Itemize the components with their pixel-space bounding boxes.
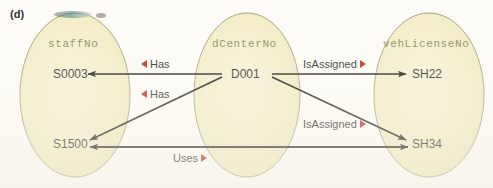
diagram-svg xyxy=(0,0,493,188)
triangle-right-icon xyxy=(201,154,207,162)
value-sh34: SH34 xyxy=(412,137,442,151)
edge-label-isassigned-1: IsAssigned xyxy=(303,58,366,70)
triangle-right-icon xyxy=(360,60,366,68)
edge-label-text: Has xyxy=(150,58,170,70)
attr-title-staffNo: staffNo xyxy=(48,38,98,50)
figure-canvas: (d) staffNo dCenterNo vehLicenseNo S0003… xyxy=(0,0,493,188)
edge-label-uses-1: Uses xyxy=(173,152,207,164)
value-s1500: S1500 xyxy=(53,137,88,151)
edge-label-text: IsAssigned xyxy=(303,58,357,70)
edge-label-has-1: Has xyxy=(141,58,170,70)
triangle-left-icon xyxy=(141,60,147,68)
edge-label-text: Has xyxy=(150,88,170,100)
attr-title-dCenterNo: dCenterNo xyxy=(212,38,277,50)
edge-label-has-2: Has xyxy=(141,88,170,100)
value-sh22: SH22 xyxy=(412,67,442,81)
attr-title-vehLicenseNo: vehLicenseNo xyxy=(383,38,469,50)
triangle-right-icon xyxy=(360,120,366,128)
edge-label-text: IsAssigned xyxy=(303,118,357,130)
value-s0003: S0003 xyxy=(53,67,88,81)
figure-label: (d) xyxy=(10,8,24,20)
edge-label-isassigned-2: IsAssigned xyxy=(303,118,366,130)
edge-label-text: Uses xyxy=(173,152,198,164)
value-d001: D001 xyxy=(231,67,260,81)
triangle-left-icon xyxy=(141,90,147,98)
